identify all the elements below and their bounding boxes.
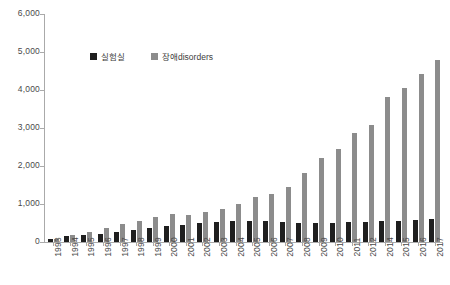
bar-group [360, 14, 377, 242]
bar-group [62, 14, 79, 242]
bar-group [178, 14, 195, 242]
x-axis-tick-label: 1993 [45, 247, 62, 285]
bar-series-0 [98, 234, 103, 242]
bar-series-1 [286, 187, 291, 242]
bar-series-1 [319, 158, 324, 242]
bar-group [426, 14, 443, 242]
bar-group [277, 14, 294, 242]
bar-series-0 [346, 222, 351, 242]
x-axis-tick-label: 2016 [410, 247, 427, 285]
x-axis-tick-label: 2011 [343, 247, 360, 285]
x-axis-tick-label: 2008 [294, 247, 311, 285]
y-axis-tick-label: 1,000 [18, 198, 40, 208]
x-axis-tick-label: 1994 [62, 247, 79, 285]
bar-group-container [45, 14, 443, 242]
bar-series-0 [147, 228, 152, 242]
bar-group [244, 14, 261, 242]
bar-group [310, 14, 327, 242]
bar-group [377, 14, 394, 242]
x-axis-tick-label: 2000 [161, 247, 178, 285]
x-axis-tick-label: 1999 [144, 247, 161, 285]
x-axis-tick-label: 2006 [261, 247, 278, 285]
x-axis-tick-label: 1998 [128, 247, 145, 285]
y-axis-tick-mark [40, 14, 44, 15]
bar-series-1 [253, 197, 258, 242]
x-axis-tick-label: 1996 [95, 247, 112, 285]
bar-series-1 [435, 60, 440, 242]
bar-series-1 [402, 88, 407, 242]
bar-series-1 [336, 149, 341, 242]
y-axis-tick-label: 6,000 [18, 8, 40, 18]
bar-series-0 [263, 221, 268, 242]
x-axis-tick-label: 2010 [327, 247, 344, 285]
y-axis-tick-mark [40, 242, 44, 243]
bar-series-1 [302, 173, 307, 242]
bar-group [161, 14, 178, 242]
bar-series-0 [247, 221, 252, 242]
y-axis-tick-label: 4,000 [18, 84, 40, 94]
bar-series-1 [269, 194, 274, 242]
y-axis-tick-mark [40, 204, 44, 205]
bar-group [294, 14, 311, 242]
bar-group [343, 14, 360, 242]
x-axis-tick-label: 2017 [426, 247, 443, 285]
plot-area [45, 14, 443, 242]
x-axis-tick-label: 2007 [277, 247, 294, 285]
bar-group [194, 14, 211, 242]
bar-group [45, 14, 62, 242]
bar-group [144, 14, 161, 242]
bar-group [111, 14, 128, 242]
bar-group [327, 14, 344, 242]
bar-series-1 [352, 133, 357, 242]
x-axis-tick-label: 2001 [178, 247, 195, 285]
bar-group [393, 14, 410, 242]
bar-series-0 [296, 223, 301, 242]
bar-series-0 [131, 230, 136, 242]
bar-series-1 [385, 97, 390, 242]
x-axis-tick-label: 2012 [360, 247, 377, 285]
bar-group [227, 14, 244, 242]
bar-series-0 [230, 221, 235, 242]
bar-group [128, 14, 145, 242]
y-axis-tick-label: 5,000 [18, 46, 40, 56]
bar-series-1 [369, 125, 374, 242]
bar-series-0 [313, 223, 318, 242]
y-axis-tick-label: 3,000 [18, 122, 40, 132]
y-axis-tick-mark [40, 90, 44, 91]
bar-group [78, 14, 95, 242]
bar-group [261, 14, 278, 242]
x-axis-tick-label: 2004 [227, 247, 244, 285]
bar-series-0 [429, 219, 434, 242]
bar-group [211, 14, 228, 242]
bar-series-0 [413, 220, 418, 242]
y-axis-tick-mark [40, 166, 44, 167]
y-axis-tick-label: 2,000 [18, 160, 40, 170]
x-axis-tick-label: 2002 [194, 247, 211, 285]
x-axis-tick-label: 2003 [211, 247, 228, 285]
x-axis-tick-label: 1995 [78, 247, 95, 285]
y-axis-tick-mark [40, 128, 44, 129]
bar-series-0 [114, 232, 119, 242]
x-axis-tick-label: 2014 [377, 247, 394, 285]
x-axis-tick-label: 1997 [111, 247, 128, 285]
bar-group [95, 14, 112, 242]
y-axis-tick-label: 0 [35, 236, 40, 246]
x-axis-tick-label: 2005 [244, 247, 261, 285]
bar-series-0 [180, 225, 185, 242]
bar-series-0 [330, 223, 335, 242]
bar-series-0 [379, 221, 384, 242]
bar-group [410, 14, 427, 242]
x-axis-label-group: 1993199419951996199719981999200020012002… [45, 247, 443, 285]
bar-series-0 [214, 222, 219, 242]
x-axis-tick-label: 2015 [393, 247, 410, 285]
bar-series-1 [419, 74, 424, 242]
bar-chart: 6,0005,0004,0003,0002,0001,0000 실험실 장애di… [0, 0, 450, 285]
x-axis-tick-label: 2009 [310, 247, 327, 285]
y-axis-tick-mark [40, 52, 44, 53]
